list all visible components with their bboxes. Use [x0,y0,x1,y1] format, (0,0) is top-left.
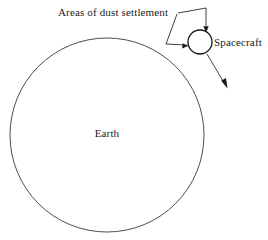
dust-settlement-label: Areas of dust settlement [58,6,168,18]
diagram-canvas: Earth Areas of dust settlement Spacecraf… [0,0,268,240]
arrowhead-top-icon [203,26,208,32]
diagram-svg: Earth Areas of dust settlement Spacecraf… [0,0,268,240]
earth-label: Earth [95,127,120,139]
leader-line-left [166,14,182,45]
spacecraft-circle [188,30,212,54]
leader-line-top [178,8,206,26]
trajectory-line [207,54,224,83]
spacecraft-label: Spacecraft [214,36,262,48]
